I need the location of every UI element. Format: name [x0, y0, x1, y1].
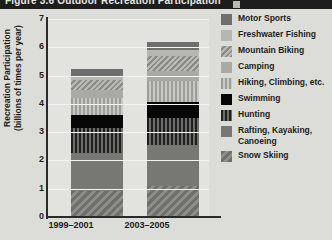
- legend-swatch-icon: [221, 46, 232, 57]
- y-axis-line: [46, 17, 48, 219]
- bar-segment[interactable]: [71, 191, 123, 216]
- legend-item[interactable]: Camping: [221, 61, 331, 73]
- chart-legend: Motor SportsFreshwater FishingMountain B…: [221, 13, 331, 166]
- bar-segment[interactable]: [71, 153, 123, 191]
- legend-swatch-icon: [221, 14, 232, 25]
- chart-page: Figure 3.6 Outdoor Recreation Participat…: [0, 0, 332, 240]
- legend-item-label: Hunting: [238, 109, 270, 120]
- legend-item[interactable]: Hunting: [221, 109, 331, 121]
- bar-segment[interactable]: [71, 69, 123, 76]
- y-axis-tick-5: 5: [4, 70, 44, 80]
- legend-item-label: Rafting, Kayaking, Canoeing: [238, 125, 331, 146]
- legend-item[interactable]: Hiking, Climbing, etc.: [221, 77, 331, 89]
- legend-item-label: Hiking, Climbing, etc.: [238, 77, 324, 88]
- legend-item[interactable]: Swimming: [221, 93, 331, 105]
- chart-canvas: Recreation Participation (billions of ti…: [0, 9, 332, 240]
- legend-swatch-icon: [221, 78, 232, 89]
- legend-item[interactable]: Rafting, Kayaking, Canoeing: [221, 125, 331, 146]
- gridline-6: [47, 47, 209, 48]
- legend-swatch-icon: [221, 151, 232, 162]
- gridline-2: [47, 160, 209, 161]
- figure-header-title: Figure 3.6 Outdoor Recreation Participat…: [5, 0, 221, 6]
- legend-swatch-icon: [221, 62, 232, 73]
- legend-swatch-icon: [221, 126, 232, 137]
- legend-item[interactable]: Motor Sports: [221, 13, 331, 25]
- legend-item-label: Snow Skiing: [238, 150, 289, 161]
- bar-segment[interactable]: [71, 90, 123, 98]
- legend-item-label: Camping: [238, 61, 274, 72]
- legend-item-label: Swimming: [238, 93, 281, 104]
- y-axis-tick-4: 4: [4, 98, 44, 108]
- gridline-5: [47, 76, 209, 77]
- y-axis-tick-7: 7: [4, 13, 44, 23]
- x-axis-tick-label-1: 2003–2005: [107, 220, 187, 230]
- legend-swatch-icon: [221, 94, 232, 105]
- y-axis-ticks: 01234567: [0, 18, 44, 218]
- legend-item-label: Freshwater Fishing: [238, 29, 316, 40]
- figure-header-bar: Figure 3.6 Outdoor Recreation Participat…: [0, 0, 332, 9]
- legend-item[interactable]: Snow Skiing: [221, 150, 331, 162]
- gridline-7: [47, 19, 209, 20]
- page-corner-marker-icon: [233, 1, 240, 8]
- y-axis-tick-3: 3: [4, 126, 44, 136]
- bar-segment[interactable]: [147, 81, 199, 102]
- bar-segment[interactable]: [147, 186, 199, 217]
- bar-segment[interactable]: [71, 98, 123, 115]
- bar-segment[interactable]: [147, 42, 199, 50]
- y-axis-tick-2: 2: [4, 154, 44, 164]
- gridline-1: [47, 189, 209, 190]
- legend-item-label: Motor Sports: [238, 13, 291, 24]
- y-axis-tick-1: 1: [4, 183, 44, 193]
- gridline-4: [47, 104, 209, 105]
- legend-item[interactable]: Mountain Biking: [221, 45, 331, 57]
- bar-segment[interactable]: [71, 80, 123, 90]
- bar-segment[interactable]: [147, 145, 199, 186]
- bar-segment[interactable]: [147, 56, 199, 72]
- y-axis-tick-6: 6: [4, 41, 44, 51]
- legend-swatch-icon: [221, 30, 232, 41]
- x-axis-line: [46, 216, 221, 218]
- legend-item-label: Mountain Biking: [238, 45, 304, 56]
- legend-swatch-icon: [221, 110, 232, 121]
- stacked-bar-1999-2001[interactable]: [71, 69, 123, 218]
- gridline-3: [47, 132, 209, 133]
- stacked-bar-2003-2005[interactable]: [147, 42, 199, 217]
- bar-segment[interactable]: [71, 115, 123, 128]
- plot-area: [47, 19, 209, 217]
- x-axis-tick-label-0: 1999–2001: [31, 220, 111, 230]
- legend-item[interactable]: Freshwater Fishing: [221, 29, 331, 41]
